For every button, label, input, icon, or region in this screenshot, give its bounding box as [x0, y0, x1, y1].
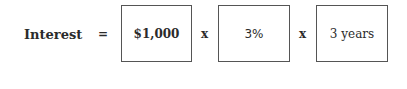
multiply-sign-2: x	[299, 27, 306, 41]
principal-value: $1,000	[134, 27, 180, 41]
rate-box: 3%	[218, 5, 290, 62]
equals-sign: =	[98, 27, 108, 41]
time-box: 3 years	[316, 5, 388, 62]
interest-label: Interest	[24, 27, 82, 42]
principal-box: $1,000	[121, 5, 192, 62]
rate-value: 3%	[244, 27, 263, 41]
time-value: 3 years	[330, 27, 374, 41]
multiply-sign-1: x	[201, 27, 208, 41]
